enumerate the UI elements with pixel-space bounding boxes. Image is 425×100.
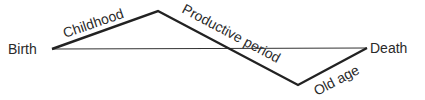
baseline [52, 48, 367, 49]
life-cycle-diagram: Birth Death Childhood Productive period … [0, 0, 425, 100]
birth-label: Birth [8, 41, 37, 57]
death-label: Death [370, 40, 407, 56]
productive-period-label: Productive period [180, 1, 284, 66]
old-age-label: Old age [311, 61, 362, 98]
